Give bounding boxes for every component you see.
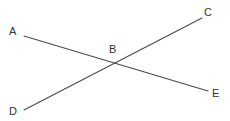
line-segment-dc: [24, 18, 202, 110]
line-diagram: A B C D E: [0, 0, 230, 121]
point-label-a: A: [9, 26, 16, 37]
point-label-e: E: [212, 88, 219, 99]
diagram-canvas: [0, 0, 230, 121]
point-label-b: B: [109, 44, 116, 55]
point-label-d: D: [9, 106, 17, 117]
point-label-c: C: [204, 7, 212, 18]
